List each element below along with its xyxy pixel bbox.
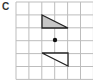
grid-diagram xyxy=(0,0,93,83)
center-of-rotation-point xyxy=(53,38,57,42)
